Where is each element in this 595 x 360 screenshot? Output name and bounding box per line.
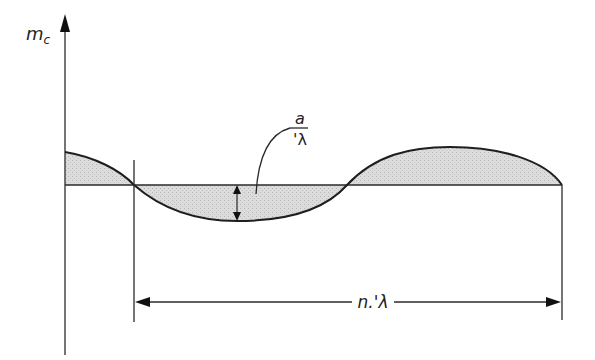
wave-diagram: mc a 'λ n.'λ (0, 0, 595, 360)
amplitude-label-numerator: a (295, 109, 305, 128)
y-axis-arrow-icon (60, 14, 70, 32)
wavelength-dimension (135, 297, 561, 307)
arrow-right-icon (546, 297, 561, 307)
shaded-wave-area (65, 147, 562, 221)
amplitude-label-denominator: 'λ (293, 130, 307, 149)
wavelength-label: n.'λ (358, 292, 389, 312)
arrow-left-icon (135, 297, 150, 307)
leader-line (256, 128, 290, 194)
y-axis-label: mc (26, 23, 51, 47)
